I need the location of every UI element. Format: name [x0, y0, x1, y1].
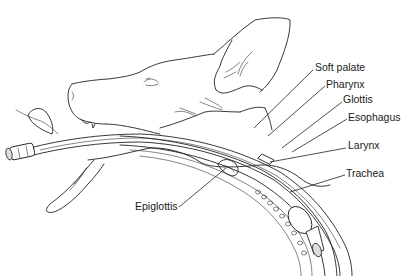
head-outline [72, 54, 214, 84]
label-epiglottis: Epiglottis [135, 201, 178, 212]
label-larynx: Larynx [348, 140, 380, 151]
leader-esophagus [292, 119, 347, 152]
ear-outline [214, 18, 290, 92]
label-soft-palate: Soft palate [315, 62, 365, 73]
anatomy-diagram: Soft palate Pharynx Glottis Esophagus La… [0, 0, 414, 276]
tube-connector [9, 143, 35, 161]
label-pharynx: Pharynx [326, 79, 365, 90]
leader-larynx [270, 148, 346, 162]
nose [68, 84, 106, 124]
label-glottis: Glottis [343, 94, 373, 105]
throat-contour [88, 148, 330, 186]
leader-glottis [282, 102, 342, 148]
leader-soft-palate [254, 70, 313, 128]
dog-intubation-illustration [0, 0, 414, 276]
label-trachea: Trachea [346, 168, 384, 179]
leader-pharynx [268, 86, 325, 136]
tongue [47, 160, 104, 213]
leader-trachea [290, 175, 345, 192]
eye [144, 79, 158, 82]
pilot-balloon [28, 108, 53, 134]
leader-epiglottis [179, 168, 226, 207]
neck-upper [160, 111, 240, 128]
label-esophagus: Esophagus [348, 112, 401, 123]
lower-jaw [106, 124, 160, 134]
